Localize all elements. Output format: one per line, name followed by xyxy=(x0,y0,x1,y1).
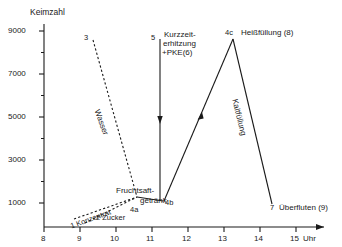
x-tick-label-9: 9 xyxy=(77,234,81,244)
x-tick-label-15: 15 xyxy=(290,234,299,244)
y-tick-label-3000: 3000 xyxy=(8,155,26,165)
point-label-7: 7 xyxy=(270,203,274,213)
series-erhitzungsanstieg-line xyxy=(164,39,233,201)
x-tick-label-10: 10 xyxy=(110,234,119,244)
x-tick-label-11: 11 xyxy=(146,234,154,244)
series-label-kurzzeit-line3: +PKE(6) xyxy=(162,48,192,58)
erhitzungsanstieg-arrowhead-up xyxy=(198,112,204,120)
x-tick-label-8: 8 xyxy=(41,234,45,244)
series-label-getraenk: getränk xyxy=(140,196,167,206)
y-tick-label-1000: 1000 xyxy=(8,198,26,208)
point-label-3: 3 xyxy=(84,33,88,43)
x-tick-label-12: 12 xyxy=(182,234,191,244)
kurzzeiterhitzung-arrowhead-down xyxy=(157,116,162,124)
y-tick-label-9000: 9000 xyxy=(8,26,26,36)
y-axis-title: Keimzahl xyxy=(30,8,65,18)
point-label-5: 5 xyxy=(151,33,155,43)
x-axis-arrowhead xyxy=(316,224,324,230)
series-label-ueberfluten: Überfluten (9) xyxy=(279,203,328,213)
y-tick-label-7000: 7000 xyxy=(8,69,26,79)
x-tick-label-13: 13 xyxy=(218,234,227,244)
keimzahl-chart: Keimzahl 9000 7000 5000 3000 1000 8 9 10… xyxy=(0,0,342,247)
series-label-fruchtsaft: Fruchtsaft- xyxy=(116,186,154,196)
x-axis-unit-label: Uhr xyxy=(303,234,316,244)
y-tick-label-5000: 5000 xyxy=(8,112,26,122)
point-label-4a: 4a xyxy=(130,205,138,215)
series-label-heissfuellung: Heißfüllung (8) xyxy=(241,28,293,38)
x-tick-label-14: 14 xyxy=(254,234,263,244)
point-label-4c: 4c xyxy=(225,28,233,38)
point-label-2-zucker: 2 Zucker xyxy=(96,213,125,223)
